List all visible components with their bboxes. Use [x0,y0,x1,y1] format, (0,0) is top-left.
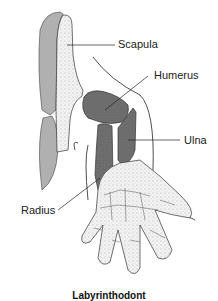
humerus-bone [83,91,129,124]
label-radius: Radius [21,204,55,216]
label-humerus: Humerus [154,69,199,81]
lower-blade-bone [39,116,58,190]
radius-leader [58,178,100,210]
scapula-bone [56,15,83,152]
label-ulna: Ulna [184,134,207,146]
label-scapula: Scapula [118,38,158,50]
arm-outline [86,145,88,200]
caption: Labyrinthodont [0,290,218,301]
